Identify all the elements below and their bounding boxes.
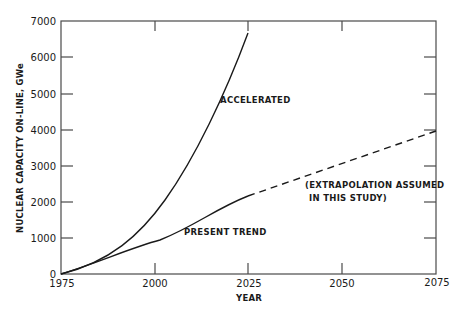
annotation-extrapolation-line1: (EXTRAPOLATION ASSUMED [305, 180, 444, 190]
x-tick-2075: 2075 [424, 277, 449, 288]
y-axis-ticks-left [61, 57, 73, 238]
annotation-extrapolation-line2: IN THIS STUDY) [309, 193, 387, 203]
accelerated-line [61, 33, 248, 274]
nuclear-capacity-chart: 0 1000 2000 3000 4000 5000 6000 7000 197… [0, 0, 463, 320]
y-tick-5000: 5000 [31, 89, 56, 100]
y-axis-title: NUCLEAR CAPACITY ON-LINE, GWe [15, 63, 25, 233]
x-tick-2050: 2050 [329, 278, 354, 289]
y-tick-2000: 2000 [31, 197, 56, 208]
y-tick-7000: 7000 [31, 16, 56, 27]
x-axis-ticks-bottom [155, 263, 342, 274]
y-tick-labels: 0 1000 2000 3000 4000 5000 6000 7000 [31, 16, 56, 280]
annotation-accelerated: ACCELERATED [220, 95, 291, 105]
y-tick-3000: 3000 [31, 161, 56, 172]
y-tick-1000: 1000 [31, 233, 56, 244]
x-tick-2000: 2000 [142, 278, 167, 289]
y-axis-ticks-right [424, 57, 436, 238]
x-axis-title: YEAR [235, 293, 262, 303]
annotation-present-trend: PRESENT TREND [184, 227, 267, 237]
y-tick-6000: 6000 [31, 52, 56, 63]
x-axis-ticks-top [155, 21, 342, 31]
x-tick-1975: 1975 [49, 278, 74, 289]
x-tick-2025: 2025 [236, 278, 261, 289]
y-tick-4000: 4000 [31, 125, 56, 136]
x-tick-labels: 1975 2000 2025 2050 2075 [49, 277, 449, 289]
